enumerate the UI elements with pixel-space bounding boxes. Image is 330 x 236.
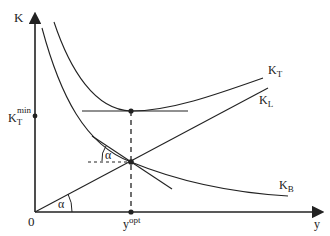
cost-diagram: K y 0 KT KL KB KT min yopt α α — [0, 0, 330, 236]
kt-min-axis-point — [33, 114, 38, 119]
y-opt-label: yopt — [123, 215, 141, 231]
kb-curve — [42, 28, 288, 196]
kt-min-point — [128, 108, 133, 113]
tangent-angle-label: α — [105, 148, 112, 162]
kb-label: KB — [279, 178, 294, 194]
origin-angle-arc — [68, 194, 72, 212]
optimum-point — [128, 159, 134, 165]
y-opt-point — [128, 209, 133, 214]
y-axis-label: K — [14, 10, 24, 25]
kt-label: KT — [268, 63, 283, 79]
kt-curve — [54, 22, 263, 111]
kt-min-superscript: min — [17, 105, 32, 115]
kl-label: KL — [259, 93, 273, 109]
x-axis-label: y — [314, 217, 320, 231]
origin-angle-label: α — [58, 197, 65, 211]
origin-label: 0 — [28, 214, 35, 229]
kl-line — [35, 88, 268, 212]
